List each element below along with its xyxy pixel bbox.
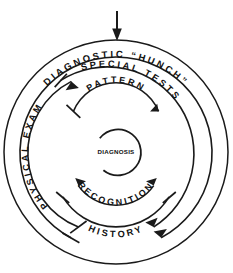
tick-history-end [163, 192, 176, 203]
label-history: HISTORY [87, 223, 145, 239]
label-physical-exam: PHYSICAL EXAM [20, 101, 50, 211]
arrowhead-pattern [150, 104, 159, 112]
label-recognition: RECOGNITION [76, 180, 156, 208]
diagram-root: DIAGNOSTIC “HUNCH” SPECIAL TESTS PHYSICA… [0, 0, 233, 273]
tick-pattern-start [67, 105, 81, 118]
tick-physical-exam-start [70, 221, 86, 233]
input-arrow [112, 11, 122, 41]
tick-diagnostic-hunch-start [62, 233, 79, 243]
label-diagnosis: DIAGNOSIS [98, 148, 135, 155]
tick-history-start [56, 192, 69, 203]
diagnostic-spiral-diagram: DIAGNOSTIC “HUNCH” SPECIAL TESTS PHYSICA… [0, 0, 233, 273]
input-arrow-head [112, 29, 122, 42]
label-pattern: PATTERN [85, 75, 148, 94]
